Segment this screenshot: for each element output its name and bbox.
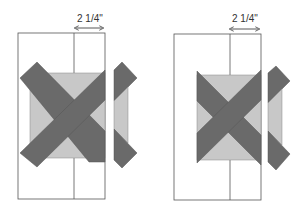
measurement-label: 2 1/4": [77, 13, 103, 24]
quilt-block-diagram: 2 1/4" 2 1/4": [0, 0, 307, 215]
left-figure: 2 1/4": [18, 13, 137, 199]
right-figure: 2 1/4": [174, 13, 290, 200]
measurement-label: 2 1/4": [232, 13, 258, 24]
